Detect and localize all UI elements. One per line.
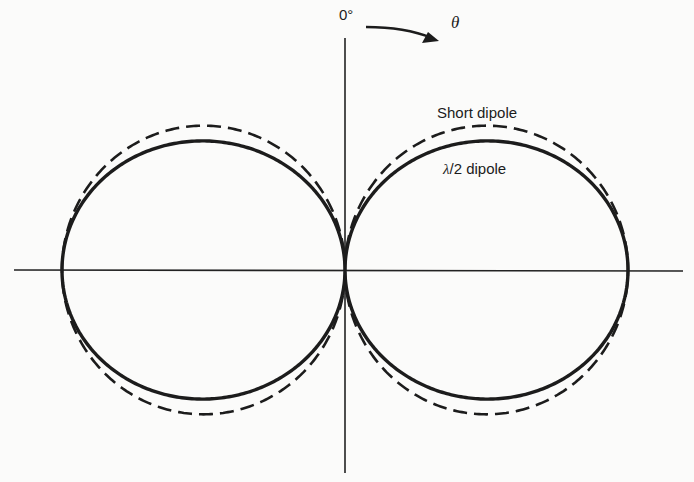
zero-degree-label: 0° [339,6,353,23]
theta-direction-arrow [366,27,432,38]
polar-plot [0,0,694,482]
half-wave-label-text: /2 dipole [450,160,507,177]
arrowhead-icon [422,32,439,43]
legend-half-wave-dipole: λ/2 dipole [443,160,506,178]
theta-label: θ [451,13,459,33]
radiation-pattern-diagram: 0° θ Short dipole λ/2 dipole [0,0,694,482]
legend-short-dipole: Short dipole [437,104,517,121]
horizontal-axis [14,270,683,271]
